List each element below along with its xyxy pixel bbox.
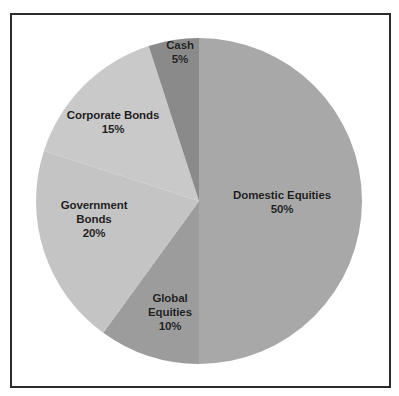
slice-label-cash: Cash 5% <box>143 38 217 66</box>
slice-label-domestic-equities: Domestic Equities 50% <box>212 188 352 216</box>
slice-label-global-equities: Global Equities 10% <box>125 291 215 333</box>
pie-chart-figure: Domestic Equities 50% Global Equities 10… <box>0 0 399 396</box>
slice-label-government-bonds: Government Bonds 20% <box>36 198 152 240</box>
slice-label-corporate-bonds: Corporate Bonds 15% <box>48 108 178 136</box>
